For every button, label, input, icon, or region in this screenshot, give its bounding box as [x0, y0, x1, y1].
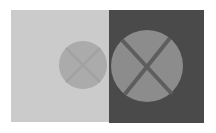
light-panel	[11, 10, 109, 122]
contrast-diagram	[0, 0, 216, 133]
illusion-figure	[0, 0, 216, 133]
dark-panel	[109, 10, 204, 123]
